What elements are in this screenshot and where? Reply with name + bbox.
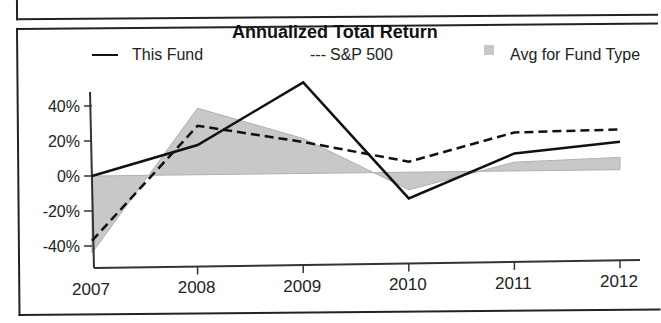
y-tick-label: 40% <box>48 98 80 115</box>
sp500-line <box>92 126 620 241</box>
y-tick-label: 0% <box>57 168 80 185</box>
x-tick-label: 2007 <box>72 280 110 299</box>
y-tick-label: -20% <box>43 203 80 220</box>
x-tick-label: 2009 <box>283 277 321 296</box>
y-tick-label: 20% <box>48 133 80 150</box>
x-tick-label: 2008 <box>178 278 216 297</box>
x-tick-label: 2011 <box>495 274 532 293</box>
y-tick-label: -40% <box>43 238 80 255</box>
avg-fund-type-area <box>92 108 620 253</box>
x-axis <box>94 260 640 268</box>
x-tick-label: 2012 <box>600 272 638 291</box>
this-fund-line <box>92 82 620 198</box>
x-tick-label: 2010 <box>389 275 427 294</box>
